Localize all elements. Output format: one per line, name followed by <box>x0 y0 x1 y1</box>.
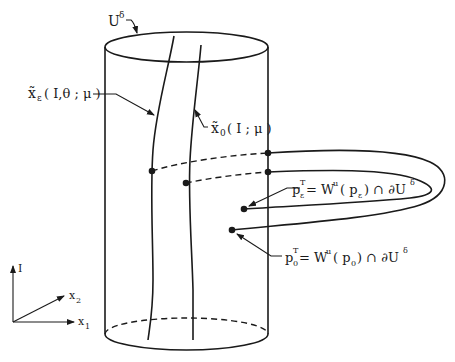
svg-text:) ∩ ∂U: ) ∩ ∂U <box>357 250 399 265</box>
point-upper-boundary <box>265 150 272 157</box>
svg-text:δ: δ <box>403 246 408 255</box>
cylinder <box>105 32 268 350</box>
label-x-0: x̃ 0 ( I ; μ ) <box>195 110 272 138</box>
svg-text:= W: = W <box>306 182 335 197</box>
svg-text:I: I <box>18 262 22 275</box>
svg-text:δ: δ <box>410 178 415 187</box>
pT-0-arrow <box>237 234 282 256</box>
svg-text:x: x <box>69 289 76 302</box>
axis-x2 <box>13 296 64 322</box>
label-pT-0: p T 0 = W u ( p 0 ) ∩ ∂U δ <box>237 234 408 268</box>
x-eps-arrow <box>93 94 154 115</box>
point-pT-eps <box>241 206 248 213</box>
point-lower-boundary <box>265 169 272 176</box>
point-0-inner <box>183 180 190 187</box>
point-eps-inner <box>149 168 156 175</box>
dashed-link-upper <box>152 153 268 171</box>
label-pT-eps: p T ε = W u ( p ε ) ∩ ∂U δ <box>249 178 415 206</box>
svg-text:( p: ( p <box>333 250 351 265</box>
u-delta-arrow <box>126 20 137 33</box>
svg-text:x̃: x̃ <box>211 120 219 136</box>
svg-text:ε: ε <box>358 191 362 200</box>
cylinder-bottom-front <box>105 334 268 350</box>
svg-text:u: u <box>333 179 338 188</box>
u-delta-label: U δ <box>108 10 137 33</box>
svg-text:δ: δ <box>119 10 124 20</box>
x-0-arrow <box>195 110 208 127</box>
cylinder-bottom-back <box>105 318 268 334</box>
diagram-figure: U δ x̃ ε ( I,θ ; μ ) x̃ 0 ( I ; μ ) p T … <box>0 0 455 362</box>
svg-text:= W: = W <box>299 250 328 265</box>
label-x-eps: x̃ ε ( I,θ ; μ ) <box>28 85 154 115</box>
curve-x-0 <box>189 45 201 340</box>
svg-text:u: u <box>326 247 331 256</box>
point-pT-0 <box>229 227 236 234</box>
svg-text:0: 0 <box>220 128 226 138</box>
dashed-link-lower <box>186 172 268 183</box>
loop-outer <box>232 150 445 230</box>
svg-text:) ∩ ∂U: ) ∩ ∂U <box>364 182 406 197</box>
cylinder-top-ellipse <box>105 32 268 62</box>
svg-text:( I ; μ ): ( I ; μ ) <box>227 121 272 136</box>
svg-text:0: 0 <box>351 259 356 268</box>
curve-x-eps <box>148 36 174 340</box>
coordinate-axes: I x 2 x 1 <box>13 262 90 331</box>
svg-text:2: 2 <box>76 296 81 305</box>
svg-text:( p: ( p <box>340 182 358 197</box>
svg-text:x̃: x̃ <box>28 85 36 101</box>
svg-text:ε: ε <box>37 93 42 103</box>
svg-text:ε: ε <box>300 191 304 200</box>
svg-text:( I,θ ; μ ): ( I,θ ; μ ) <box>44 86 101 101</box>
svg-text:x: x <box>78 315 85 328</box>
svg-text:1: 1 <box>85 322 90 331</box>
svg-text:0: 0 <box>293 259 298 268</box>
